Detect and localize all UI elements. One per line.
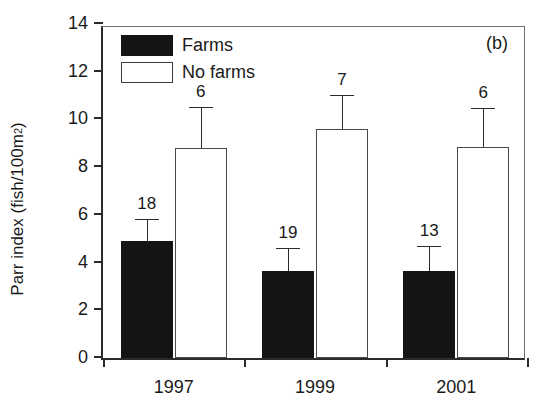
y-axis-title: Parr index (fish/100m2) bbox=[0, 0, 36, 418]
y-axis-title-suffix: ) bbox=[8, 122, 28, 128]
legend-label: No farms bbox=[182, 62, 255, 83]
error-bar-cap bbox=[135, 219, 159, 220]
bar-nofarms-1999 bbox=[316, 129, 368, 358]
error-bar-stem bbox=[429, 247, 430, 271]
error-bar-cap bbox=[276, 248, 300, 249]
bar-farms-1999 bbox=[262, 271, 314, 358]
x-axis-tick-label: 2001 bbox=[436, 377, 476, 398]
sample-size-label: 6 bbox=[479, 83, 488, 103]
y-axis-tick: 2 bbox=[94, 308, 103, 310]
y-axis-tick-label: 2 bbox=[78, 299, 88, 320]
error-bar-stem bbox=[483, 109, 484, 147]
bar-nofarms-1997 bbox=[175, 148, 227, 358]
legend-swatch-nofarms bbox=[121, 62, 173, 83]
y-axis-tick-label: 6 bbox=[78, 204, 88, 225]
error-bar-stem bbox=[288, 249, 289, 270]
y-axis-tick: 8 bbox=[94, 165, 103, 167]
y-axis-tick-label: 10 bbox=[68, 108, 88, 129]
legend-item: Farms bbox=[121, 33, 255, 58]
error-bar-stem bbox=[342, 96, 343, 129]
sample-size-label: 13 bbox=[420, 221, 439, 241]
y-axis-tick-label: 14 bbox=[68, 13, 88, 34]
x-axis-tick-label: 1997 bbox=[154, 377, 194, 398]
panel-label: (b) bbox=[486, 33, 508, 54]
legend-item: No farms bbox=[121, 60, 255, 85]
error-bar-stem bbox=[147, 220, 148, 241]
x-axis-tick-label: 1999 bbox=[295, 377, 335, 398]
x-axis-tick bbox=[527, 358, 529, 367]
error-bar-stem bbox=[201, 108, 202, 149]
error-bar-cap bbox=[471, 108, 495, 109]
y-axis-tick: 14 bbox=[94, 22, 103, 24]
legend-swatch-farms bbox=[121, 35, 173, 56]
bar-farms-2001 bbox=[403, 271, 455, 358]
y-axis-tick: 0 bbox=[94, 356, 103, 358]
y-axis-tick-label: 0 bbox=[78, 347, 88, 368]
sample-size-label: 7 bbox=[337, 70, 346, 90]
chart-figure: Parr index (fish/100m2) 02468101214 1997… bbox=[0, 0, 542, 418]
y-axis-tick: 10 bbox=[94, 117, 103, 119]
y-axis-tick: 4 bbox=[94, 261, 103, 263]
y-axis-tick-label: 12 bbox=[68, 61, 88, 82]
y-axis-tick-label: 8 bbox=[78, 156, 88, 177]
plot-area: 02468101214 199719992001 186197136 Farms… bbox=[101, 26, 525, 360]
error-bar-cap bbox=[189, 107, 213, 108]
bar-nofarms-2001 bbox=[457, 147, 509, 358]
legend-label: Farms bbox=[182, 35, 233, 56]
sample-size-label: 18 bbox=[137, 194, 156, 214]
bar-farms-1997 bbox=[121, 241, 173, 358]
y-axis-title-text: Parr index (fish/100m bbox=[8, 134, 28, 296]
chart-legend: FarmsNo farms bbox=[121, 33, 255, 85]
error-bar-cap bbox=[330, 95, 354, 96]
y-axis-tick: 6 bbox=[94, 213, 103, 215]
y-axis-tick-label: 4 bbox=[78, 252, 88, 273]
x-axis-tick bbox=[103, 358, 105, 367]
sample-size-label: 19 bbox=[279, 223, 298, 243]
error-bar-cap bbox=[417, 246, 441, 247]
y-axis-tick: 12 bbox=[94, 70, 103, 72]
x-axis-tick bbox=[386, 358, 388, 367]
x-axis-tick bbox=[244, 358, 246, 367]
